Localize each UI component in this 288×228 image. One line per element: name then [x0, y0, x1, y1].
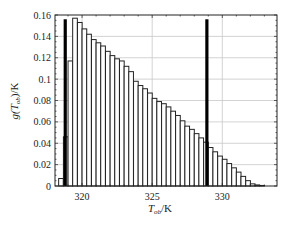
histogram-bar [166, 107, 171, 186]
x-tick-label: 325 [145, 191, 160, 202]
histogram-chart: 00.020.040.060.080.10.120.140.16 3203253… [0, 0, 288, 228]
histogram-bar [148, 93, 153, 186]
y-tick-label: 0.04 [34, 138, 52, 149]
histogram-bar [101, 46, 106, 186]
histogram-bar [208, 148, 213, 186]
histogram-bar [162, 104, 167, 186]
histogram-bar [143, 89, 148, 186]
histogram-bar [222, 159, 227, 186]
y-tick-label: 0.16 [34, 10, 52, 21]
histogram-bar [59, 179, 64, 186]
histogram-bar [246, 181, 251, 186]
y-axis-label: g(Tob)/K [8, 82, 22, 119]
histogram-bar [91, 40, 96, 186]
histogram-bar [152, 98, 157, 186]
histogram-bar [232, 168, 237, 186]
histogram-bar [199, 138, 204, 186]
histogram-bar [87, 34, 92, 186]
histogram-bar [218, 156, 223, 186]
histogram-bar [180, 121, 185, 186]
y-tick-label: 0.14 [34, 31, 52, 42]
histogram-bar [73, 18, 78, 186]
histogram-bar [157, 102, 162, 186]
y-tick-labels: 00.020.040.060.080.10.120.140.16 [34, 10, 52, 192]
histogram-bar [105, 51, 110, 186]
x-axis-label: Tob/K [148, 202, 172, 216]
histogram-bar [68, 61, 73, 186]
histogram-bar [129, 72, 134, 186]
histogram-bars [59, 18, 265, 186]
x-tick-label: 330 [215, 191, 230, 202]
histogram-bar [134, 81, 139, 186]
histogram-bar [176, 115, 181, 186]
histogram-bar [190, 129, 195, 186]
y-tick-label: 0.02 [34, 159, 52, 170]
histogram-bar [171, 111, 176, 186]
chart-canvas: 00.020.040.060.080.10.120.140.16 3203253… [0, 0, 288, 228]
histogram-bar [115, 59, 120, 186]
histogram-bar [120, 61, 125, 186]
y-tick-label: 0.1 [39, 74, 52, 85]
histogram-bar [138, 86, 143, 186]
histogram-bar [185, 126, 190, 186]
histogram-bar [124, 66, 129, 186]
y-tick-label: 0.08 [34, 95, 52, 106]
histogram-bar [227, 164, 232, 186]
histogram-bar [194, 134, 199, 186]
histogram-bar [96, 43, 101, 186]
histogram-bar [82, 29, 87, 186]
histogram-bar [241, 176, 246, 186]
y-tick-label: 0.06 [34, 116, 52, 127]
histogram-bar [213, 152, 218, 186]
x-tick-label: 320 [75, 191, 90, 202]
x-tick-labels: 320325330 [75, 191, 230, 202]
y-tick-label: 0.12 [34, 52, 52, 63]
histogram-bar [77, 22, 82, 186]
y-tick-label: 0 [46, 181, 51, 192]
histogram-bar [236, 172, 241, 186]
histogram-bar [110, 56, 115, 186]
